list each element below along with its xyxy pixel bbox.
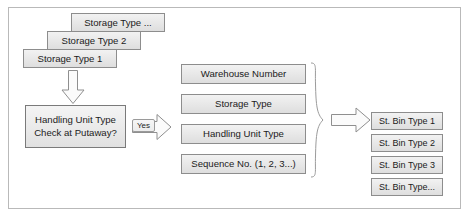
result-box-st-bin-type-more: St. Bin Type...	[371, 178, 443, 196]
criteria-box-sequence-no: Sequence No. (1, 2, 3...)	[181, 154, 306, 174]
result-box-st-bin-type-3: St. Bin Type 3	[371, 156, 443, 174]
result-box-st-bin-type-2: St. Bin Type 2	[371, 134, 443, 152]
storage-type-stack-label-2: Storage Type 2	[62, 35, 127, 46]
arrow-right-icon-result	[331, 107, 371, 133]
storage-type-stack-label-3: Storage Type ...	[84, 17, 152, 28]
criteria-label-warehouse-number: Warehouse Number	[201, 68, 287, 79]
decision-box-handling-unit-type-check: Handling Unit Type Check at Putaway?	[25, 105, 126, 148]
criteria-label-sequence-no: Sequence No. (1, 2, 3...)	[191, 158, 296, 169]
result-box-st-bin-type-1: St. Bin Type 1	[371, 112, 443, 130]
arrow-down-icon	[61, 70, 85, 105]
criteria-box-storage-type: Storage Type	[181, 94, 306, 114]
criteria-label-storage-type: Storage Type	[215, 98, 272, 109]
criteria-box-handling-unit-type: Handling Unit Type	[181, 124, 306, 144]
storage-type-stack-box-1: Storage Type 1	[23, 49, 117, 68]
decision-box-line-1: Handling Unit Type	[34, 114, 117, 127]
result-label-st-bin-type-3: St. Bin Type 3	[379, 160, 435, 170]
result-label-st-bin-type-2: St. Bin Type 2	[379, 138, 435, 148]
diagram-frame: Storage Type ... Storage Type 2 Storage …	[8, 7, 461, 209]
result-label-st-bin-type-more: St. Bin Type...	[379, 182, 435, 192]
storage-type-stack-box-2: Storage Type 2	[47, 31, 141, 50]
storage-type-stack-label-1: Storage Type 1	[38, 53, 103, 64]
branch-label-yes: Yes	[132, 119, 155, 132]
branch-label-yes-text: Yes	[137, 121, 150, 130]
criteria-label-handling-unit-type: Handling Unit Type	[203, 128, 284, 139]
result-label-st-bin-type-1: St. Bin Type 1	[379, 116, 435, 126]
diagram-canvas: Storage Type ... Storage Type 2 Storage …	[0, 0, 470, 219]
decision-box-line-2: Check at Putaway?	[34, 127, 117, 140]
storage-type-stack-box-3: Storage Type ...	[71, 13, 165, 32]
criteria-box-warehouse-number: Warehouse Number	[181, 64, 306, 84]
curly-brace-icon	[309, 62, 325, 178]
